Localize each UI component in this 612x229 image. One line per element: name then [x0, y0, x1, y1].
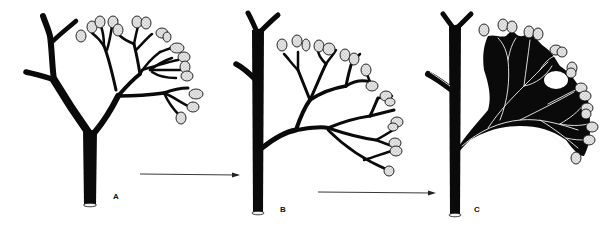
panel-c: [428, 14, 598, 217]
arrow-a-to-b: [140, 173, 240, 178]
panel-label-b: B: [280, 205, 286, 214]
panel-b: [236, 13, 403, 215]
arrow-b-to-c: [318, 191, 436, 196]
panel-a: [26, 16, 203, 207]
panel-label-a: A: [113, 192, 119, 201]
panel-label-c: C: [474, 205, 480, 214]
bud-group-b: [277, 35, 403, 176]
branching-diagram: [0, 0, 612, 229]
